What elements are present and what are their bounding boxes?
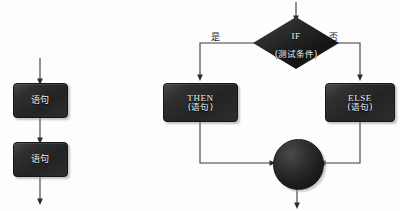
- decision-keyword-label: IF: [291, 31, 300, 41]
- connector-yes-to-then: [200, 43, 258, 78]
- merge-node[interactable]: [273, 139, 324, 190]
- flowchart-canvas: 语句 语句 IF (测试条件) 是 否 THEN (语句) ELSE (语句): [0, 0, 400, 211]
- connector-else-to-merge: [322, 122, 360, 163]
- then-statement-label: (语句): [187, 103, 213, 113]
- else-branch-node[interactable]: ELSE (语句): [325, 83, 395, 122]
- decision-node-if[interactable]: IF (测试条件): [253, 17, 339, 69]
- statement-node-1[interactable]: 语句: [13, 83, 68, 118]
- else-branch-text: ELSE (语句): [347, 93, 372, 113]
- statement-node-2-label: 语句: [31, 154, 49, 164]
- statement-node-2[interactable]: 语句: [13, 142, 68, 177]
- statement-node-1-label: 语句: [31, 95, 49, 105]
- else-statement-label: (语句): [347, 103, 372, 113]
- decision-condition-label: (测试条件): [275, 49, 318, 59]
- then-branch-text: THEN (语句): [187, 93, 213, 113]
- edge-label-no: 否: [329, 30, 338, 43]
- then-branch-node[interactable]: THEN (语句): [163, 83, 238, 122]
- decision-node-if-text: IF (测试条件): [275, 25, 318, 60]
- connector-then-to-merge: [200, 122, 273, 163]
- edge-label-yes: 是: [211, 30, 220, 43]
